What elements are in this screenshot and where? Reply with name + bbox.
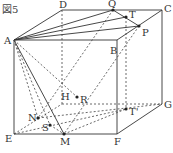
label-G: G	[164, 99, 172, 110]
line-AQ	[14, 10, 113, 40]
point-P	[137, 24, 140, 27]
line-PM	[64, 26, 139, 134]
label-C: C	[164, 3, 172, 14]
point-N	[36, 116, 39, 119]
label-M: M	[60, 136, 70, 147]
line-QN	[38, 10, 113, 118]
line-AR	[14, 40, 77, 97]
figure-title: 図5	[2, 4, 18, 15]
line-AT	[14, 17, 126, 40]
label-P: P	[142, 27, 149, 38]
label-T: T	[129, 9, 136, 20]
label-S: S	[42, 122, 49, 133]
cube-diagram: 図5 D Q C T P A B H R G T' N S E M F	[0, 0, 173, 153]
label-Q: Q	[108, 0, 116, 9]
label-R: R	[80, 94, 88, 105]
label-A: A	[3, 35, 12, 46]
label-D: D	[59, 0, 67, 10]
point-T	[124, 15, 127, 18]
label-E: E	[5, 133, 12, 144]
label-F: F	[114, 136, 121, 147]
point-T2	[124, 107, 127, 110]
label-T-prime: T'	[129, 106, 138, 117]
line-AM	[14, 40, 64, 134]
point-S	[48, 123, 51, 126]
label-B: B	[110, 45, 117, 56]
edge-FG	[117, 104, 162, 134]
label-N: N	[28, 112, 37, 123]
point-R	[75, 95, 78, 98]
label-H: H	[61, 91, 70, 102]
